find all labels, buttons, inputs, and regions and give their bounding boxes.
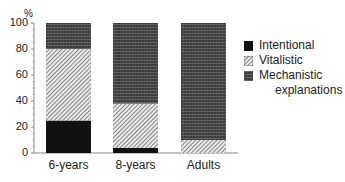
- bar-segment-mechanistic: [181, 23, 226, 140]
- legend-item-mechanistic: Mechanistic: [244, 68, 342, 83]
- bar-8-years: [113, 23, 158, 153]
- legend-label: Vitalistic: [259, 53, 303, 68]
- legend-label-continuation: explanations: [244, 83, 342, 98]
- hatched-swatch-icon: [244, 56, 253, 66]
- y-tick-label: 60: [6, 69, 28, 80]
- bar-adults: [181, 23, 226, 153]
- grid-swatch-icon: [244, 71, 253, 81]
- x-category-label: 8-years: [101, 159, 171, 172]
- bar-segment-vitalistic: [46, 49, 91, 121]
- legend-item-intentional: Intentional: [244, 38, 342, 53]
- legend: Intentional Vitalistic Mechanistic expla…: [244, 38, 342, 98]
- bars: [46, 23, 226, 153]
- legend-item-vitalistic: Vitalistic: [244, 53, 342, 68]
- bar-segment-vitalistic: [113, 104, 158, 148]
- bar-segment-mechanistic: [113, 23, 158, 104]
- x-category-label: 6-years: [34, 159, 104, 172]
- y-tick-label: 40: [6, 95, 28, 106]
- stacked-bar-chart: % 020406080100 6-years8-yearsAdults Inte…: [0, 0, 345, 182]
- y-tick-label: 100: [6, 17, 28, 28]
- bar-6-years: [46, 23, 91, 153]
- y-tick-label: 0: [6, 147, 28, 158]
- bar-segment-mechanistic: [46, 23, 91, 49]
- legend-label: Intentional: [259, 38, 314, 53]
- bar-segment-intentional: [46, 121, 91, 154]
- solid-black-swatch-icon: [244, 41, 253, 51]
- y-tick-label: 20: [6, 121, 28, 132]
- legend-label: Mechanistic: [259, 68, 322, 83]
- bar-segment-intentional: [113, 148, 158, 153]
- x-category-label: Adults: [169, 159, 239, 172]
- y-tick-label: 80: [6, 43, 28, 54]
- bar-segment-vitalistic: [181, 140, 226, 153]
